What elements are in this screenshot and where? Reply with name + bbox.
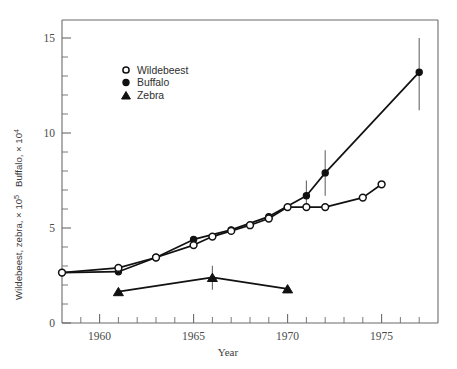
wildebeest-marker — [359, 194, 366, 201]
wildebeest-marker — [284, 204, 291, 211]
y-axis-ticks — [62, 38, 71, 323]
y-axis-title: Wildebeest, zebra, × 105 Buffalo, × 104 — [12, 129, 24, 300]
series-buffalo — [59, 38, 422, 276]
y-axis-title-part1: Wildebeest, zebra, × 10 — [13, 199, 24, 300]
series-wildebeest — [59, 181, 385, 276]
buffalo-line — [62, 72, 419, 272]
legend-marker-buffalo — [123, 79, 129, 85]
x-tick-label-1970: 1970 — [276, 330, 299, 342]
x-tick-label-1975: 1975 — [370, 330, 393, 342]
x-axis-ticks — [81, 314, 419, 323]
legend-label-wildebeest: Wildebeest — [137, 65, 189, 76]
wildebeest-marker — [209, 233, 216, 240]
figure-canvas: 15 10 5 0 — [0, 0, 457, 369]
buffalo-marker — [303, 193, 309, 199]
wildebeest-marker — [322, 204, 329, 211]
wildebeest-marker — [265, 215, 272, 222]
x-axis-title: Year — [218, 346, 239, 358]
wildebeest-marker — [303, 204, 310, 211]
wildebeest-marker — [115, 265, 122, 272]
svg-text:Wildebeest, zebra, × 105 Buf: Wildebeest, zebra, × 105 Buffalo, × 104 — [12, 129, 24, 300]
y-axis-title-part2: Buffalo, × 10 — [13, 133, 24, 187]
y-axis-title-exp2: 4 — [12, 129, 21, 133]
legend: Wildebeest Buffalo Zebra — [122, 65, 189, 101]
x-tick-label-1960: 1960 — [88, 330, 111, 342]
wildebeest-line — [62, 184, 382, 272]
legend-label-buffalo: Buffalo — [137, 77, 169, 88]
y-tick-label-5: 5 — [49, 222, 55, 234]
wildebeest-marker — [228, 228, 235, 235]
y-tick-label-10: 10 — [44, 127, 56, 139]
wildebeest-marker — [59, 269, 66, 276]
y-axis-tick-labels: 15 10 5 0 — [44, 32, 56, 329]
buffalo-marker — [322, 170, 328, 176]
legend-label-zebra: Zebra — [137, 90, 164, 101]
wildebeest-marker — [247, 222, 254, 229]
x-tick-label-1965: 1965 — [182, 330, 205, 342]
series-zebra — [113, 266, 292, 296]
x-axis-tick-labels: 1960 1965 1970 1975 — [88, 330, 393, 342]
buffalo-marker — [416, 69, 422, 75]
wildebeest-marker — [378, 181, 385, 188]
y-tick-label-15: 15 — [44, 32, 56, 44]
legend-marker-wildebeest — [123, 67, 129, 73]
wildebeest-marker — [153, 254, 160, 261]
plot-frame — [62, 20, 438, 323]
population-trend-chart: 15 10 5 0 — [0, 0, 457, 369]
zebra-line — [118, 277, 287, 291]
wildebeest-marker — [190, 242, 197, 249]
legend-marker-zebra — [122, 92, 131, 100]
y-tick-label-0: 0 — [49, 317, 55, 329]
